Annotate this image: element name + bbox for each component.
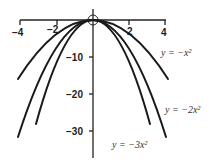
x-tick-label-m4: −4	[12, 27, 24, 38]
x-tick-label-4: 4	[161, 27, 167, 38]
y-tick-label-m20: −20	[66, 89, 83, 100]
curve-label-neg-2x2: y = −2x²	[164, 104, 201, 115]
y-tick-label-m30: −30	[66, 126, 83, 137]
parabola-chart: −4 −2 2 4 −10 −20 −30 y = −x² y = −2x² y…	[0, 0, 213, 163]
y-tick-label-m10: −10	[66, 52, 83, 63]
curve-label-neg-3x2: y = −3x²	[111, 139, 148, 150]
curve-neg-2x2	[18, 20, 166, 137]
axes	[20, 9, 166, 158]
curve-label-neg-x2: y = −x²	[160, 47, 192, 58]
